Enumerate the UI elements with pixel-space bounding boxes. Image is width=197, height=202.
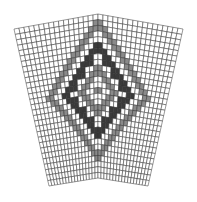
chart-cell	[119, 80, 124, 86]
chart-cell	[107, 61, 112, 67]
chart-cell	[82, 157, 85, 163]
chart-cell	[93, 42, 98, 48]
chart-cell	[72, 120, 76, 126]
chart-cell	[126, 42, 131, 48]
chart-cell	[72, 114, 76, 120]
chart-cell	[94, 59, 98, 65]
chart-cell	[130, 54, 135, 60]
chart-cell	[75, 108, 79, 114]
chart-cell	[87, 111, 91, 117]
chart-cell	[103, 43, 108, 49]
chart-cell	[81, 135, 85, 141]
chart-cell	[66, 53, 71, 59]
chart-cell	[122, 97, 126, 103]
chart-cell	[93, 20, 98, 27]
chart-cell	[79, 33, 84, 39]
chart-cell	[102, 122, 106, 128]
chart-cell	[119, 74, 124, 80]
chart-cell	[94, 110, 98, 116]
chart-cell	[74, 23, 79, 29]
chart-cell	[114, 96, 118, 102]
chart-cell	[112, 124, 116, 130]
chart-cell	[95, 161, 98, 167]
chart-cell	[91, 128, 95, 134]
chart-cell	[84, 123, 88, 129]
chart-cell	[106, 100, 110, 106]
chart-cell	[102, 77, 106, 83]
chart-cell	[88, 151, 91, 157]
chart-cell	[117, 108, 121, 114]
chart-cell	[73, 80, 78, 86]
chart-cell	[90, 88, 94, 94]
chart-cell	[109, 112, 113, 118]
chart-cell	[92, 156, 95, 162]
chart-cell	[112, 45, 117, 51]
chart-cell	[86, 174, 89, 180]
chart-cell	[85, 66, 89, 72]
chart-cell	[56, 43, 61, 49]
chart-cell	[128, 70, 133, 76]
chart-cell	[68, 69, 73, 75]
chart-cell	[90, 100, 94, 106]
chart-cell	[88, 26, 93, 32]
chart-cell	[83, 169, 86, 175]
chart-cell	[115, 79, 120, 85]
chart-cell	[154, 137, 159, 143]
chart-cell	[78, 90, 82, 96]
chart-cell	[83, 174, 86, 180]
chart-cell	[116, 51, 121, 57]
chart-cell	[86, 78, 90, 84]
chart-cell	[86, 89, 90, 95]
chart-cell	[103, 37, 108, 43]
chart-cell	[75, 40, 80, 46]
chart-cell	[98, 121, 102, 127]
chart-cell	[83, 21, 88, 27]
chart-cell	[94, 71, 98, 77]
chart-cell	[102, 66, 106, 72]
chart-cell	[101, 139, 105, 145]
chart-cell	[94, 127, 98, 133]
chart-cell	[98, 59, 102, 65]
chart-cell	[65, 36, 70, 42]
chart-cell	[115, 74, 120, 80]
chart-cell	[66, 92, 71, 98]
chart-cell	[89, 60, 93, 66]
chart-cell	[69, 81, 74, 87]
chart-cell	[175, 39, 181, 45]
chart-cell	[172, 50, 178, 56]
chart-cell	[136, 38, 141, 44]
chart-cell	[171, 55, 177, 61]
chart-cell	[167, 77, 173, 83]
chart-cell	[124, 64, 129, 70]
chart-cell	[161, 104, 166, 110]
chart-cell	[104, 173, 107, 179]
chart-cell	[112, 39, 117, 45]
chart-cell	[77, 79, 81, 85]
chart-cell	[64, 76, 69, 82]
chart-cell	[84, 140, 88, 146]
chart-cell	[98, 20, 103, 27]
chart-cell	[105, 140, 109, 146]
chart-cell	[60, 31, 65, 37]
chart-cell	[69, 30, 74, 36]
chart-cell	[84, 44, 89, 50]
chart-cell	[121, 46, 126, 52]
chart-cell	[94, 65, 98, 71]
chart-cell	[84, 38, 89, 44]
chart-cell	[84, 27, 89, 33]
knitting-chart	[0, 0, 197, 202]
chart-cell	[80, 124, 84, 130]
chart-cell	[74, 34, 79, 40]
chart-cell	[121, 41, 126, 47]
chart-cell	[73, 125, 77, 131]
chart-cell	[64, 30, 69, 36]
chart-cell	[91, 116, 95, 122]
chart-cell	[108, 140, 112, 146]
chart-cell	[129, 59, 134, 65]
chart-cell	[60, 37, 65, 43]
chart-cell	[88, 145, 91, 151]
chart-cell	[101, 150, 104, 156]
chart-cell	[93, 25, 98, 32]
chart-cell	[103, 49, 108, 55]
chart-cell	[95, 150, 98, 156]
